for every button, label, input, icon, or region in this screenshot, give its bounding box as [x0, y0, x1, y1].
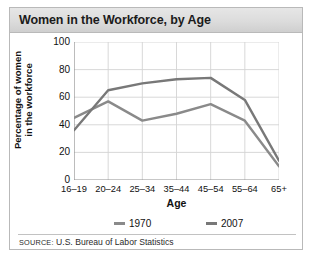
- y-axis-ticks: 100806040200: [40, 42, 70, 180]
- x-axis-tick: 16–19: [57, 184, 91, 194]
- source-label: SOURCE:: [19, 238, 54, 247]
- x-axis-tick: 20–24: [91, 184, 125, 194]
- chart-plot-region: Percentage of women in the workforce 100…: [10, 34, 304, 219]
- y-axis-tick: 60: [44, 91, 70, 102]
- y-axis-label: Percentage of women in the workforce: [12, 40, 34, 160]
- x-axis-tick: 25–34: [125, 184, 159, 194]
- gridlines: [74, 42, 279, 180]
- chart-card: Women in the Workforce, by Age Percentag…: [9, 7, 303, 250]
- legend-label: 1970: [129, 218, 151, 229]
- page-title: Women in the Workforce, by Age: [19, 13, 211, 27]
- source-note: SOURCE: U.S. Bureau of Labor Statistics: [19, 237, 174, 247]
- legend-item-2007[interactable]: 2007: [206, 218, 243, 229]
- y-axis-tick: 80: [44, 64, 70, 75]
- legend-swatch-icon: [114, 222, 125, 225]
- legend-item-1970[interactable]: 1970: [114, 218, 151, 229]
- x-axis-tick: 65+: [262, 184, 296, 194]
- legend-swatch-icon: [206, 222, 217, 225]
- source-value: U.S. Bureau of Labor Statistics: [54, 237, 174, 247]
- y-axis-label-line1: Percentage of women: [12, 51, 23, 149]
- source-divider: [18, 234, 296, 235]
- y-axis-label-line2: in the workforce: [23, 63, 34, 136]
- y-axis-tick: 20: [44, 146, 70, 157]
- x-axis-label: Age: [74, 197, 279, 209]
- y-axis-tick: 100: [44, 36, 70, 47]
- x-axis-tick: 35–44: [160, 184, 194, 194]
- card-title-bar: Women in the Workforce, by Age: [10, 8, 302, 33]
- chart-legend: 19702007: [10, 218, 304, 234]
- x-axis-tick: 55–64: [228, 184, 262, 194]
- x-axis-ticks: 16–1920–2425–3435–4445–5455–6465+: [66, 184, 292, 198]
- y-axis-tick: 40: [44, 119, 70, 130]
- plot-lines: [74, 42, 279, 180]
- x-axis-tick: 45–54: [194, 184, 228, 194]
- legend-label: 2007: [221, 218, 243, 229]
- line-chart-svg: [74, 42, 279, 180]
